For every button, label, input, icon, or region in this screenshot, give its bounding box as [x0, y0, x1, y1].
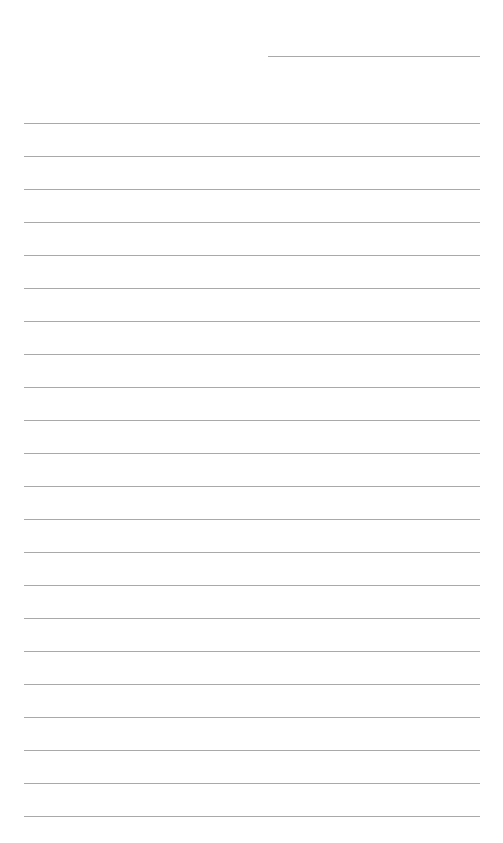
ruled-line — [24, 651, 480, 652]
ruled-line — [24, 387, 480, 388]
ruled-line — [24, 684, 480, 685]
ruled-line — [24, 717, 480, 718]
ruled-line — [24, 420, 480, 421]
ruled-line — [24, 750, 480, 751]
ruled-line — [24, 222, 480, 223]
ruled-line — [24, 552, 480, 553]
ruled-line — [24, 288, 480, 289]
ruled-line — [24, 486, 480, 487]
ruled-line — [24, 816, 480, 817]
ruled-line — [24, 519, 480, 520]
ruled-line — [24, 783, 480, 784]
ruled-line — [24, 255, 480, 256]
ruled-line — [24, 618, 480, 619]
ruled-line — [24, 189, 480, 190]
ruled-line — [24, 156, 480, 157]
ruled-line — [24, 453, 480, 454]
header-name-line — [268, 56, 480, 57]
ruled-line — [24, 321, 480, 322]
ruled-paper-page — [0, 0, 503, 843]
ruled-line — [24, 354, 480, 355]
ruled-line — [24, 123, 480, 124]
ruled-line — [24, 585, 480, 586]
